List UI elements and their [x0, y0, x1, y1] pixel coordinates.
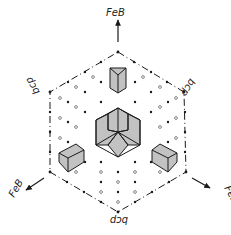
crystal-lower-left	[59, 144, 84, 172]
label-lower-right: FeB	[222, 184, 231, 206]
arrow-lower-right-icon	[192, 178, 210, 188]
crystal-growth-diagram: FeB bcp bcp FeB FeB bcp	[0, 0, 231, 235]
crystal-lower-right	[152, 144, 177, 172]
crystal-top	[110, 68, 126, 93]
crystal-center	[96, 108, 140, 157]
label-upper-left: bcp	[23, 75, 42, 96]
arrow-lower-left-icon	[26, 178, 44, 190]
axis-arrows	[26, 20, 210, 190]
label-bottom: bcp	[110, 215, 128, 226]
label-top: FeB	[106, 7, 125, 18]
label-upper-right: bcp	[179, 77, 198, 98]
label-lower-left: FeB	[6, 177, 25, 199]
